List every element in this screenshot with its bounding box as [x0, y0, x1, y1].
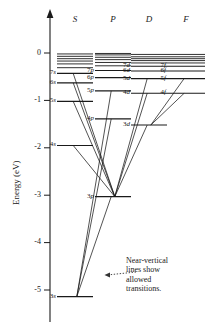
level-label-7d: 7d	[118, 62, 130, 69]
transition-3d-to-5f	[151, 79, 184, 125]
y-tick-label: 0	[12, 49, 41, 57]
annotation-line-1: Near-vertical	[126, 256, 168, 265]
transition-3p-to-4d	[115, 93, 147, 196]
axis-ticks	[44, 53, 50, 290]
level-label-6s: 6s	[44, 79, 56, 86]
level-label-4d: 4d	[118, 89, 130, 96]
level-label-3p: 3p	[82, 193, 94, 200]
energy-axis	[47, 9, 54, 322]
transition-3p-to-4s	[73, 145, 115, 196]
level-label-4f: 4f	[154, 89, 166, 96]
level-label-3d: 3d	[118, 121, 130, 128]
column-header-f: F	[176, 15, 196, 24]
annotation-line-4: transitions.	[126, 284, 168, 293]
annotation-line-3: allowed	[126, 275, 168, 284]
transition-3p-to-5s	[73, 101, 115, 196]
transition-3p-to-7s	[73, 73, 115, 196]
level-label-7p: 7p	[82, 67, 94, 74]
transition-3s-to-3p	[77, 197, 111, 297]
level-label-5f: 5f	[154, 75, 166, 82]
y-tick-label: -4	[12, 238, 41, 246]
transition-3p-to-3d	[115, 125, 147, 197]
axis-arrowhead	[47, 9, 54, 18]
column-header-d: D	[139, 15, 159, 24]
level-label-5d: 5d	[118, 75, 130, 82]
level-label-7s: 7s	[44, 69, 56, 76]
transition-3p-to-5d	[115, 79, 147, 197]
annotation-arrowhead	[105, 273, 111, 278]
y-tick-label: -3	[12, 191, 41, 199]
level-label-4s: 4s	[44, 141, 56, 148]
y-tick-label: -2	[12, 143, 41, 151]
energy-level-diagram: Energy (eV) 0-1-2-3-4-5 SPDF 3s4s5s6s7s3…	[0, 0, 210, 328]
level-label-6p: 6p	[82, 74, 94, 81]
level-label-7f: 7f	[154, 62, 166, 69]
annotation-line-2: lines show	[126, 265, 168, 274]
level-label-3s: 3s	[44, 293, 56, 300]
level-label-5p: 5p	[82, 87, 94, 94]
annotation-text: Near-vertical lines show allowed transit…	[126, 256, 168, 294]
level-label-5s: 5s	[44, 97, 56, 104]
column-header-s: S	[65, 15, 85, 24]
y-tick-label: -1	[12, 96, 41, 104]
level-label-4p: 4p	[82, 115, 94, 122]
transition-3d-to-4f	[151, 93, 184, 125]
y-tick-label: -5	[12, 286, 41, 294]
column-header-p: P	[103, 15, 123, 24]
transition-3p-to-6s	[73, 83, 115, 197]
